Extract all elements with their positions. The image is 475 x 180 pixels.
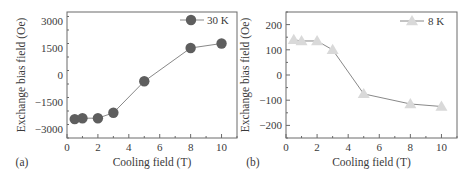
series-line-segment — [113, 81, 144, 113]
x-tick-label: 8 — [408, 141, 414, 153]
y-tick-label: 0 — [277, 69, 283, 81]
legend-label: 8 K — [428, 15, 444, 27]
data-point — [216, 38, 226, 48]
y-tick-label: 200 — [266, 19, 283, 31]
data-point — [327, 44, 339, 54]
data-point — [185, 43, 195, 53]
y-tick-label: −200 — [259, 119, 282, 131]
plot-frame — [67, 12, 237, 138]
y-tick-label: 3000 — [41, 15, 64, 27]
y-tick-label: 100 — [266, 44, 283, 56]
x-tick-label: 10 — [436, 141, 448, 153]
legend-marker — [406, 15, 418, 25]
data-point — [139, 76, 149, 86]
x-tick-label: 10 — [216, 141, 228, 153]
y-axis-title: Exchange bias field (Oe) — [15, 18, 28, 133]
x-tick-label: 6 — [157, 141, 163, 153]
data-point — [435, 101, 447, 111]
panel-b: 02468102001000−100−200Cooling field (T)E… — [239, 12, 457, 169]
x-tick-label: 8 — [188, 141, 194, 153]
y-tick-label: −100 — [259, 94, 282, 106]
data-point — [93, 113, 103, 123]
data-point — [311, 35, 323, 45]
panel-label: (a) — [16, 156, 29, 169]
y-tick-label: −1500 — [35, 96, 64, 108]
y-axis-title: Exchange bias field (Oe) — [239, 18, 252, 133]
figure: 0246810300015000−1500−3000Cooling field … — [0, 0, 475, 180]
series-line-segment — [333, 50, 364, 94]
x-axis-title: Cooling field (T) — [113, 156, 192, 169]
x-tick-label: 0 — [64, 141, 70, 153]
data-point — [108, 108, 118, 118]
x-tick-label: 2 — [95, 141, 101, 153]
x-tick-label: 2 — [314, 141, 320, 153]
y-tick-label: 0 — [58, 69, 64, 81]
data-point — [77, 113, 87, 123]
x-tick-label: 6 — [377, 141, 383, 153]
y-tick-label: −3000 — [35, 123, 64, 135]
series-line-segment — [144, 48, 190, 81]
x-tick-label: 0 — [283, 141, 289, 153]
panel-a: 0246810300015000−1500−3000Cooling field … — [15, 12, 237, 169]
legend-marker — [186, 15, 196, 25]
data-point — [358, 88, 370, 98]
panel-label: (b) — [246, 156, 260, 169]
y-tick-label: 1500 — [41, 42, 64, 54]
series-line-segment — [364, 94, 411, 104]
legend-label: 30 K — [207, 14, 229, 26]
x-tick-label: 4 — [345, 141, 351, 153]
x-axis-title: Cooling field (T) — [332, 156, 411, 169]
plot-frame — [286, 12, 457, 138]
x-tick-label: 4 — [126, 141, 132, 153]
